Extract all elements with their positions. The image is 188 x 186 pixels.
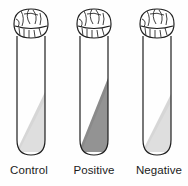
test-tube-positive: Positive	[63, 0, 125, 186]
test-tube-control: Control	[0, 0, 62, 186]
gauze-cap-icon-positive	[77, 9, 111, 38]
tube-label-control: Control	[0, 163, 60, 177]
test-tube-comparison-diagram: Control	[0, 0, 188, 186]
test-tube-negative: Negative	[126, 0, 188, 186]
liquid-fill-control	[17, 92, 45, 152]
tube-label-positive: Positive	[63, 163, 125, 177]
liquid-fill-negative	[143, 94, 171, 152]
gauze-cap-icon-negative	[140, 9, 174, 38]
tube-label-negative: Negative	[128, 163, 188, 177]
test-tube-control-drawing	[0, 0, 62, 162]
liquid-fill-positive	[80, 78, 108, 152]
test-tube-negative-drawing	[126, 0, 188, 162]
test-tube-positive-drawing	[63, 0, 125, 162]
gauze-cap-icon-control	[14, 9, 48, 38]
